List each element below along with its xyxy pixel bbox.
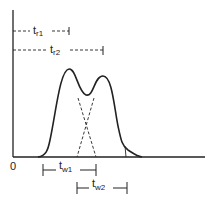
peak-width-1-marker: tw1 bbox=[43, 159, 96, 176]
tr2-subscript: r2 bbox=[53, 48, 61, 57]
svg-text:tr1: tr1 bbox=[33, 24, 44, 38]
svg-text:tr2: tr2 bbox=[50, 43, 61, 57]
svg-text:tw2: tw2 bbox=[92, 177, 106, 192]
tw1-subscript: w1 bbox=[61, 165, 73, 174]
peak1-trailing-tangent bbox=[78, 98, 96, 157]
retention-time-1-marker: tr1 bbox=[13, 24, 69, 38]
peak-width-2-marker: tw2 bbox=[77, 177, 127, 194]
tw2-subscript: w2 bbox=[94, 183, 106, 192]
chromatogram-diagram: 0 tr1 tr2 tw1 bbox=[0, 0, 215, 203]
svg-text:tw1: tw1 bbox=[59, 159, 73, 174]
origin-label: 0 bbox=[10, 160, 16, 172]
tr1-subscript: r1 bbox=[36, 29, 44, 38]
retention-time-2-marker: tr2 bbox=[13, 43, 103, 57]
peak2-leading-tangent bbox=[77, 98, 94, 157]
